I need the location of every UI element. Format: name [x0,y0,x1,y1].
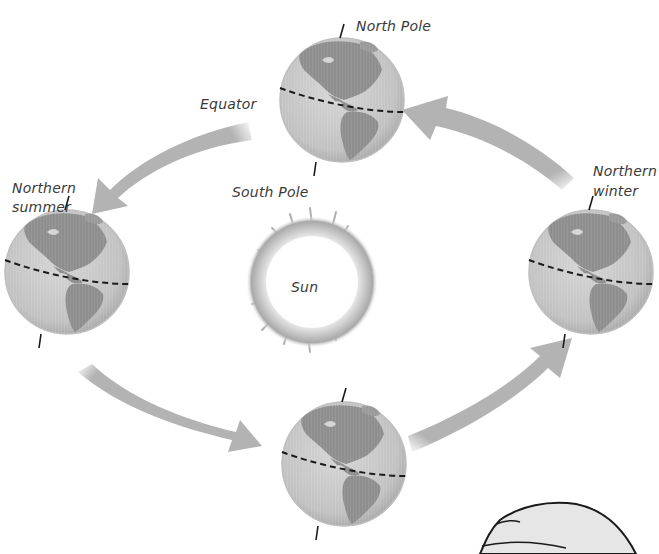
orbit-diagram: North Pole Equator South Pole Sun Northe… [0,0,659,554]
sun-label: Sun [291,278,318,296]
orbit-arrow-right-to-top [402,96,574,190]
northern-summer-label-line2: summer [12,198,71,216]
northern-winter-label-line1: Northern [593,162,657,180]
cartoon-character-head [480,503,636,554]
northern-summer-label-line1: Northern [12,179,76,197]
earth-globe-top [280,24,404,176]
north-pole-label: North Pole [356,17,431,35]
diagram-graphics [0,0,659,554]
earth-globe-northern-summer [5,196,129,348]
south-pole-label: South Pole [232,183,309,201]
equator-label: Equator [200,95,256,113]
orbit-arrow-top-to-left [92,122,252,214]
orbit-arrow-bottom-to-right [408,338,572,452]
earth-globe-northern-winter [529,196,653,348]
orbit-arrow-left-to-bottom [78,364,262,452]
earth-globe-bottom [282,388,406,540]
northern-winter-label-line2: winter [593,182,638,200]
